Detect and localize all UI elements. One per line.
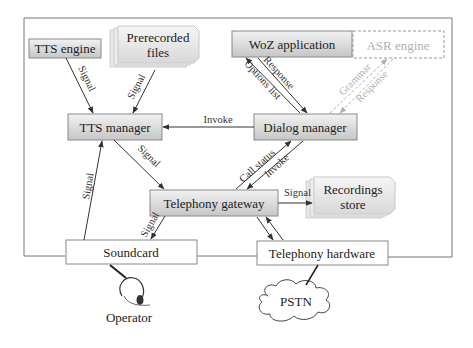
node-woz-application: WoZ application	[232, 31, 352, 57]
edge-asr-dialog: Grammar Response	[330, 59, 393, 113]
svg-text:Signal: Signal	[284, 187, 311, 198]
soundcard-label: Soundcard	[103, 245, 159, 260]
edge-gateway-dialog: Call status Invoke	[236, 141, 303, 189]
svg-text:Signal: Signal	[80, 172, 96, 200]
node-tts-engine: TTS engine	[29, 39, 101, 58]
headset-icon	[110, 265, 150, 305]
node-tts-manager: TTS manager	[68, 114, 162, 140]
edge-woz-dialog: Options list Response	[243, 54, 307, 113]
node-dialog-manager: Dialog manager	[254, 114, 357, 140]
node-prerecorded-files: Prerecorded files	[110, 26, 199, 67]
node-operator: Operator	[106, 265, 153, 325]
node-soundcard: Soundcard	[66, 240, 197, 264]
telephony-hardware-label: Telephony hardware	[269, 246, 376, 261]
asr-engine-label: ASR engine	[366, 38, 429, 53]
tts-engine-label: TTS engine	[34, 41, 95, 56]
prerecorded-label-1: Prerecorded	[127, 30, 190, 45]
node-pstn: PSTN	[259, 280, 330, 321]
edge-prerecorded-to-tts-manager: Signal	[125, 70, 155, 113]
dialog-manager-label: Dialog manager	[263, 120, 347, 135]
svg-text:Signal: Signal	[76, 64, 98, 93]
system-architecture-diagram: TTS engine Prerecorded files WoZ applica…	[0, 0, 473, 348]
edge-gateway-hardware	[257, 217, 283, 240]
edge-tts-engine-to-tts-manager: Signal	[66, 58, 98, 113]
svg-text:Signal: Signal	[125, 72, 147, 101]
pstn-label: PSTN	[280, 294, 312, 309]
woz-application-label: WoZ application	[249, 37, 336, 52]
edge-tts-to-gateway: Signal	[114, 140, 164, 189]
edge-soundcard-to-tts: Signal	[80, 141, 102, 240]
svg-text:Invoke: Invoke	[203, 114, 232, 125]
recordings-label-2: store	[340, 197, 366, 212]
prerecorded-label-2: files	[147, 45, 169, 60]
edge-invoke-tts: Invoke	[163, 114, 254, 127]
recordings-label-1: Recordings	[323, 182, 382, 197]
node-telephony-gateway: Telephony gateway	[150, 190, 278, 216]
operator-label: Operator	[106, 310, 153, 325]
telephony-gateway-label: Telephony gateway	[163, 196, 265, 211]
node-recordings-store: Recordings store	[306, 177, 395, 218]
node-telephony-hardware: Telephony hardware	[257, 241, 388, 265]
svg-text:Signal: Signal	[138, 210, 161, 239]
node-asr-engine: ASR engine	[353, 31, 444, 58]
tts-manager-label: TTS manager	[79, 120, 151, 135]
